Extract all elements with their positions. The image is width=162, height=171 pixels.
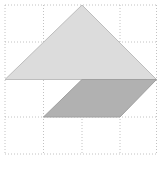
large-triangle (5, 5, 157, 80)
figure-canvas (0, 0, 162, 171)
geometry-figure (0, 0, 162, 171)
parallelogram (44, 80, 157, 118)
